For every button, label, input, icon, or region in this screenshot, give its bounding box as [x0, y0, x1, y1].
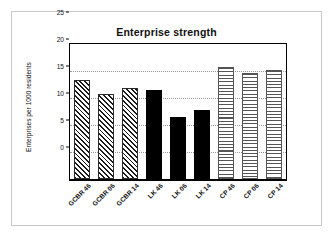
x-tick-label: LK 14 [194, 182, 212, 200]
plot-area [69, 43, 287, 181]
y-tick-mark [66, 39, 69, 40]
x-tick-label: CP 14 [266, 182, 284, 200]
y-tick-mark [66, 12, 69, 13]
bar[interactable] [218, 67, 234, 179]
x-axis-labels: GCBR 46GCBR 06GCBR 14LK 46LK 06LK 14CP 4… [69, 182, 285, 226]
y-tick-label: 0 [60, 144, 64, 151]
bar-slot [118, 44, 142, 179]
bar[interactable] [98, 94, 114, 179]
y-tick-label: 5 [60, 117, 64, 124]
bar-slot [166, 44, 190, 179]
bar[interactable] [266, 70, 282, 179]
bar-slot [190, 44, 214, 179]
bar-slot [262, 44, 286, 179]
bar-series [70, 44, 286, 179]
bar-slot [238, 44, 262, 179]
chart-figure: Enterprise strength Enterprises per 1000… [11, 11, 322, 226]
bar[interactable] [194, 110, 210, 179]
x-tick-label: GCBR 06 [91, 182, 116, 207]
x-tick-label: GCBR 14 [115, 182, 140, 207]
y-tick-label: 25 [57, 9, 64, 16]
x-tick-label: GCBR 46 [67, 182, 92, 207]
bar[interactable] [74, 80, 90, 179]
bar-slot [142, 44, 166, 179]
x-tick-label: CP 06 [242, 182, 260, 200]
bar[interactable] [146, 90, 162, 179]
x-tick-label: LK 46 [146, 182, 164, 200]
bar-slot [70, 44, 94, 179]
bar[interactable] [170, 117, 186, 179]
bar[interactable] [122, 88, 138, 179]
y-axis-ticks: 0510152025 [12, 12, 69, 147]
x-tick-label: CP 46 [218, 182, 236, 200]
bar-slot [214, 44, 238, 179]
bar-slot [94, 44, 118, 179]
bar[interactable] [242, 73, 258, 179]
x-tick-label: LK 06 [170, 182, 188, 200]
y-tick-label: 10 [57, 90, 64, 97]
y-tick-label: 15 [57, 63, 64, 70]
y-tick-label: 20 [57, 36, 64, 43]
